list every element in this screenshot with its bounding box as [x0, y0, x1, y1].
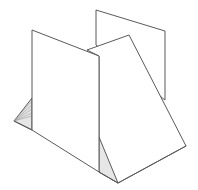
geometry-diagram — [0, 0, 198, 190]
